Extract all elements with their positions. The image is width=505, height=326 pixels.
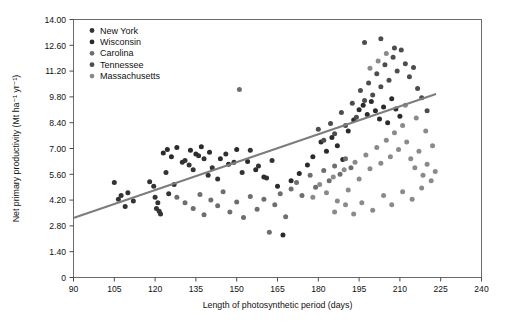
- data-point: [332, 210, 337, 215]
- data-point: [321, 138, 326, 143]
- data-point: [313, 185, 318, 190]
- data-point: [388, 154, 393, 159]
- data-point: [351, 211, 356, 216]
- data-point: [353, 160, 358, 165]
- data-point: [183, 200, 188, 205]
- legend-marker-massachusetts: [90, 74, 95, 79]
- data-point: [253, 167, 258, 172]
- data-point: [193, 152, 198, 157]
- y-tick-label: 8.40: [49, 118, 66, 128]
- data-point: [377, 117, 382, 122]
- legend-label-carolina: Carolina: [100, 48, 134, 58]
- y-tick-label: 4.20: [49, 195, 66, 205]
- data-point: [261, 197, 266, 202]
- data-point: [207, 150, 212, 155]
- data-point: [346, 128, 351, 133]
- data-point: [223, 152, 228, 157]
- data-point: [425, 108, 430, 113]
- y-tick-label: 7.00: [49, 144, 66, 154]
- data-point: [299, 193, 304, 198]
- data-point: [215, 176, 220, 181]
- data-point: [407, 74, 412, 79]
- data-point: [316, 127, 321, 132]
- data-point: [392, 46, 397, 51]
- data-point: [310, 195, 315, 200]
- data-point: [350, 101, 355, 106]
- data-point: [275, 184, 280, 189]
- data-point: [165, 147, 170, 152]
- series-points-massachusetts: [310, 51, 437, 216]
- data-point: [335, 143, 340, 148]
- data-point: [354, 115, 359, 120]
- data-point: [327, 178, 332, 183]
- data-point: [346, 187, 351, 192]
- data-point: [395, 69, 400, 74]
- data-point: [400, 189, 405, 194]
- data-point: [280, 233, 285, 238]
- legend-marker-carolina: [90, 51, 95, 56]
- data-point: [357, 107, 362, 112]
- data-point: [240, 170, 245, 175]
- data-point: [147, 179, 152, 184]
- data-point: [430, 143, 435, 148]
- data-point: [151, 184, 156, 189]
- data-point: [270, 158, 275, 163]
- data-point: [188, 148, 193, 153]
- data-point: [278, 191, 283, 196]
- data-point: [283, 214, 288, 219]
- legend-label-massachusetts: Massachusetts: [100, 71, 161, 81]
- data-point: [221, 189, 226, 194]
- x-tick-label: 120: [148, 284, 163, 294]
- data-point: [153, 195, 158, 200]
- x-tick-label: 195: [352, 284, 367, 294]
- chart-svg: 9010512013515016518019521022524001.402.8…: [0, 0, 505, 326]
- legend-marker-wisconsin: [90, 40, 95, 45]
- y-axis-title: Net primary productivity (Mt ha⁻¹ yr⁻¹): [11, 75, 21, 223]
- data-point: [433, 169, 438, 174]
- scatter-plot-figure: 9010512013515016518019521022524001.402.8…: [0, 0, 505, 326]
- data-point: [385, 120, 390, 125]
- data-point: [381, 105, 386, 110]
- data-point: [400, 123, 405, 128]
- data-point: [370, 93, 375, 98]
- data-point: [163, 170, 168, 175]
- data-point: [308, 173, 313, 178]
- data-point: [248, 148, 253, 153]
- data-point: [378, 84, 383, 89]
- data-point: [370, 208, 375, 213]
- x-tick-label: 165: [270, 284, 285, 294]
- data-point: [328, 121, 333, 126]
- y-tick-label: 1.40: [49, 247, 66, 257]
- data-point: [125, 190, 130, 195]
- data-point: [357, 176, 362, 181]
- data-point: [419, 186, 424, 191]
- data-point: [289, 178, 294, 183]
- series-points-tennessee: [316, 36, 430, 142]
- data-point: [374, 71, 379, 76]
- data-point: [411, 65, 416, 70]
- data-point: [391, 55, 396, 60]
- data-point: [358, 88, 363, 93]
- data-point: [381, 193, 386, 198]
- data-point: [234, 147, 239, 152]
- data-point: [376, 58, 381, 63]
- data-point: [169, 154, 174, 159]
- data-point: [403, 61, 408, 66]
- data-point: [343, 202, 348, 207]
- x-tick-label: 225: [434, 284, 449, 294]
- x-tick-label: 90: [69, 284, 79, 294]
- data-point: [237, 87, 242, 92]
- data-point: [161, 151, 166, 156]
- data-point: [119, 193, 124, 198]
- x-tick-label: 210: [393, 284, 408, 294]
- data-point: [310, 154, 315, 159]
- data-point: [199, 144, 204, 149]
- data-point: [415, 86, 420, 91]
- data-point: [155, 200, 160, 205]
- data-point: [361, 103, 366, 108]
- data-point: [414, 116, 419, 121]
- x-tick-label: 105: [107, 284, 122, 294]
- data-point: [399, 47, 404, 52]
- trend-line: [75, 94, 435, 217]
- data-point: [332, 131, 337, 136]
